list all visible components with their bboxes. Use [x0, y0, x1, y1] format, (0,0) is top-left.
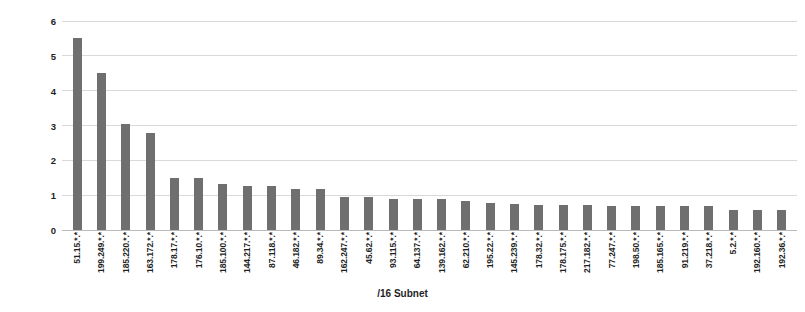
bar-slot: [624, 21, 648, 230]
x-axis-tick-label: 93.115.*.*: [388, 232, 398, 268]
bar[interactable]: [316, 189, 325, 230]
bar[interactable]: [97, 73, 106, 230]
bar[interactable]: [389, 199, 398, 230]
bar[interactable]: [729, 210, 738, 230]
bar[interactable]: [753, 210, 762, 230]
bar-slot: [357, 21, 381, 230]
bar[interactable]: [267, 186, 276, 230]
x-label-slot: 199.249.*.*: [89, 232, 113, 290]
bar-slot: [405, 21, 429, 230]
x-axis-title: /16 Subnet: [0, 288, 805, 299]
x-label-slot: 139.162.*.*: [429, 232, 453, 290]
x-axis-tick-label: 62.210.*.*: [461, 232, 471, 268]
x-axis-tick-label: 91.219.*.*: [680, 232, 690, 268]
bar[interactable]: [364, 197, 373, 230]
plot-area: [62, 21, 797, 230]
bar[interactable]: [704, 206, 713, 230]
x-axis-tick-label: 185.100.*.*: [218, 232, 228, 273]
x-axis-tick-label: 176.10.*.*: [194, 232, 204, 268]
x-label-slot: 162.247.*.*: [332, 232, 356, 290]
x-label-slot: 45.62.*.*: [357, 232, 381, 290]
x-label-slot: 51.15.*.*: [65, 232, 89, 290]
x-axis-tick-label: 46.182.*.*: [291, 232, 301, 268]
bar[interactable]: [73, 38, 82, 230]
bar-slot: [721, 21, 745, 230]
bar[interactable]: [583, 205, 592, 230]
bar[interactable]: [510, 204, 519, 230]
bar-slot: [138, 21, 162, 230]
x-axis-tick-label: 217.182.*.*: [582, 232, 592, 273]
x-axis-tick-label: 185.220.*.*: [121, 232, 131, 273]
bar[interactable]: [461, 201, 470, 230]
bar[interactable]: [146, 133, 155, 230]
bar-slot: [429, 21, 453, 230]
bar-slot: [745, 21, 769, 230]
y-axis-tick-label: 3: [30, 120, 56, 131]
x-label-slot: 176.10.*.*: [186, 232, 210, 290]
bar-slot: [308, 21, 332, 230]
x-label-slot: 195.22.*.*: [478, 232, 502, 290]
bar[interactable]: [656, 206, 665, 230]
x-axis-tick-label: 163.172.*.*: [145, 232, 155, 273]
x-axis-tick-label: 199.249.*.*: [96, 232, 106, 273]
x-label-slot: 217.182.*.*: [575, 232, 599, 290]
y-axis-tick-label: 0: [30, 225, 56, 236]
bar[interactable]: [486, 203, 495, 230]
x-label-slot: 77.247.*.*: [600, 232, 624, 290]
bar[interactable]: [170, 178, 179, 230]
bar-slot: [478, 21, 502, 230]
bar[interactable]: [680, 206, 689, 230]
x-label-slot: 91.219.*.*: [672, 232, 696, 290]
bar-slot: [186, 21, 210, 230]
x-axis-tick-label: 87.118.*.*: [267, 232, 277, 268]
x-axis-tick-label: 145.239.*.*: [509, 232, 519, 273]
bar-slot: [332, 21, 356, 230]
x-axis-tick-label: 192.160.*.*: [752, 232, 762, 273]
x-label-slot: 163.172.*.*: [138, 232, 162, 290]
x-label-slot: 185.165.*.*: [648, 232, 672, 290]
bar-slot: [770, 21, 794, 230]
x-label-slot: 185.100.*.*: [211, 232, 235, 290]
bar[interactable]: [218, 184, 227, 230]
y-axis-tick-labels: 0123456: [30, 21, 56, 230]
bar[interactable]: [194, 178, 203, 230]
y-axis-tick-label: 5: [30, 50, 56, 61]
x-label-slot: 192.160.*.*: [745, 232, 769, 290]
x-label-slot: 178.17.*.*: [162, 232, 186, 290]
bar-slot: [89, 21, 113, 230]
bar[interactable]: [777, 210, 786, 230]
bar[interactable]: [291, 189, 300, 230]
x-axis-tick-labels: 51.15.*.*199.249.*.*185.220.*.*163.172.*…: [62, 232, 797, 290]
bar[interactable]: [607, 206, 616, 230]
bar-slot: [162, 21, 186, 230]
bar-slot: [211, 21, 235, 230]
y-axis-tick-label: 2: [30, 155, 56, 166]
bar[interactable]: [413, 199, 422, 230]
x-label-slot: 192.36.*.*: [770, 232, 794, 290]
bar[interactable]: [121, 124, 130, 230]
x-axis-tick-label: 64.137.*.*: [412, 232, 422, 268]
x-label-slot: 198.50.*.*: [624, 232, 648, 290]
x-axis-tick-label: 178.175.*.*: [558, 232, 568, 273]
x-label-slot: 64.137.*.*: [405, 232, 429, 290]
bar-slot: [502, 21, 526, 230]
x-axis-tick-label: 45.62.*.*: [364, 232, 374, 264]
bar-chart: Percentage [%] 0123456 51.15.*.*199.249.…: [0, 0, 805, 312]
x-label-slot: 178.175.*.*: [551, 232, 575, 290]
bar[interactable]: [340, 197, 349, 230]
bar[interactable]: [559, 205, 568, 230]
bar[interactable]: [631, 206, 640, 230]
bar-slot: [527, 21, 551, 230]
x-axis-tick-label: 185.165.*.*: [655, 232, 665, 273]
bar-slot: [65, 21, 89, 230]
x-label-slot: 5.2.*.*: [721, 232, 745, 290]
x-axis-tick-label: 198.50.*.*: [631, 232, 641, 268]
bar[interactable]: [437, 199, 446, 230]
bar-slot: [454, 21, 478, 230]
bar-slot: [381, 21, 405, 230]
x-label-slot: 178.32.*.*: [527, 232, 551, 290]
bar[interactable]: [243, 186, 252, 230]
bar[interactable]: [534, 205, 543, 230]
x-label-slot: 62.210.*.*: [454, 232, 478, 290]
x-axis-tick-label: 89.34.*.*: [315, 232, 325, 264]
